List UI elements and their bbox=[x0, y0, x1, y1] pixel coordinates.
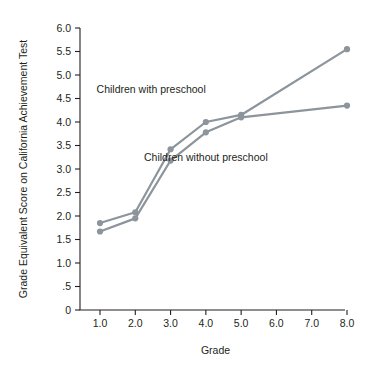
data-point-marker bbox=[97, 228, 103, 234]
data-point-marker bbox=[238, 114, 244, 120]
chart-axes bbox=[80, 28, 345, 310]
y-axis-title: Grade Equivalent Score on California Ach… bbox=[17, 40, 29, 298]
x-axis-tick-label: 1.0 bbox=[93, 317, 108, 329]
y-axis-tick-label: 2.0 bbox=[56, 210, 71, 222]
data-point-marker bbox=[203, 119, 209, 125]
x-axis-tick-label: 6.0 bbox=[269, 317, 284, 329]
x-axis-tick-label: 7.0 bbox=[304, 317, 319, 329]
line-chart: 0.51.01.52.02.53.03.54.04.55.05.56.01.02… bbox=[0, 0, 373, 369]
y-axis-tick-label: 1.0 bbox=[56, 257, 71, 269]
y-axis-tick-label: 3.5 bbox=[56, 139, 71, 151]
data-point-marker bbox=[344, 102, 350, 108]
x-axis-tick-label: 8.0 bbox=[340, 317, 355, 329]
y-axis-tick-label: 5.0 bbox=[56, 69, 71, 81]
series-annotation-1: Children with preschool bbox=[97, 83, 206, 95]
y-axis-tick-label: 3.0 bbox=[56, 163, 71, 175]
data-point-marker bbox=[97, 220, 103, 226]
y-axis-tick-label: 0 bbox=[65, 304, 71, 316]
x-axis-title: Grade bbox=[201, 344, 230, 356]
data-point-marker bbox=[203, 129, 209, 135]
y-axis-tick-label: 4.0 bbox=[56, 116, 71, 128]
series-line-1 bbox=[100, 49, 347, 223]
data-point-marker bbox=[344, 46, 350, 52]
y-axis-tick-label: .5 bbox=[62, 280, 71, 292]
x-axis-tick-label: 2.0 bbox=[128, 317, 143, 329]
x-axis-tick-label: 3.0 bbox=[163, 317, 178, 329]
y-axis-tick-label: 1.5 bbox=[56, 233, 71, 245]
y-axis-tick-label: 6.0 bbox=[56, 22, 71, 34]
chart-container: 0.51.01.52.02.53.03.54.04.55.05.56.01.02… bbox=[0, 0, 373, 369]
data-point-marker bbox=[132, 215, 138, 221]
y-axis-tick-label: 5.5 bbox=[56, 45, 71, 57]
y-axis-tick-label: 4.5 bbox=[56, 92, 71, 104]
series-annotation-2: Children without preschool bbox=[144, 151, 268, 163]
x-axis-tick-label: 4.0 bbox=[199, 317, 214, 329]
x-axis-tick-label: 5.0 bbox=[234, 317, 249, 329]
y-axis-tick-label: 2.5 bbox=[56, 186, 71, 198]
